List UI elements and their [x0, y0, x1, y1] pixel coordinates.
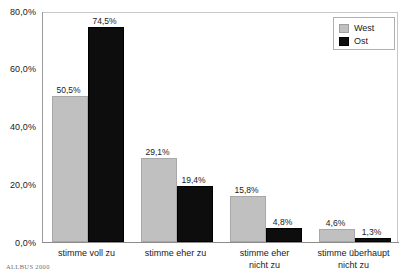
legend-item-ost: Ost [339, 35, 368, 47]
bar-value-label: 50,5% [45, 86, 93, 95]
legend-swatch-west-icon [339, 24, 349, 33]
category-label: stimme eher nicht zu [216, 248, 314, 271]
legend-label-west: West [354, 24, 374, 33]
y-axis-tick-label: 60,0% [0, 65, 36, 74]
legend-item-west: West [339, 22, 374, 34]
y-axis-line [42, 12, 43, 243]
bar-west [141, 158, 177, 242]
y-axis-tick-label: 20,0% [0, 181, 36, 190]
bar-value-label: 74,5% [81, 17, 129, 26]
bar-ost [177, 186, 213, 242]
category-label: stimme eher zu [127, 248, 225, 260]
bar-value-label: 29,1% [134, 148, 182, 157]
x-axis-line [42, 242, 399, 243]
legend-label-ost: Ost [354, 37, 368, 46]
bar-value-label: 1,3% [348, 228, 396, 237]
legend-swatch-ost-icon [339, 37, 349, 46]
bar-value-label: 19,4% [170, 176, 218, 185]
bar-ost [88, 27, 124, 242]
bar-chart: 0,0%20,0%40,0%60,0%80,0% 50,5%74,5%29,1%… [0, 0, 410, 278]
bar-west [52, 96, 88, 242]
category-label: stimme voll zu [38, 248, 136, 260]
category-label: stimme überhaupt nicht zu [305, 248, 403, 271]
bar-value-label: 15,8% [223, 186, 271, 195]
chart-legend: West Ost [333, 17, 395, 50]
bar-value-label: 4,8% [259, 218, 307, 227]
bar-ost [266, 228, 302, 242]
source-note: ALLBUS 2000 [6, 263, 50, 271]
y-axis-tick-label: 40,0% [0, 123, 36, 132]
y-axis-tick-label: 0,0% [0, 239, 36, 248]
bar-value-label: 4,6% [312, 219, 360, 228]
y-axis-tick-label: 80,0% [0, 8, 36, 17]
